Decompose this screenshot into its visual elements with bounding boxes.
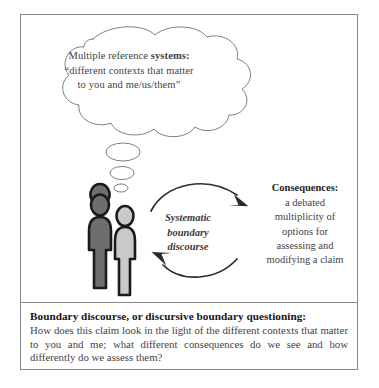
consequences-line-2: options for [255, 225, 355, 239]
caption-panel: Boundary discourse, or discursive bounda… [21, 303, 357, 369]
person-figure-right [115, 206, 135, 295]
thought-line1-bold: systems: [151, 50, 190, 61]
figure-root: Multiple reference systems: “different c… [0, 0, 379, 388]
arrow-to-people [150, 251, 237, 277]
diagram-panel: Multiple reference systems: “different c… [21, 15, 357, 302]
person-right-head [117, 206, 134, 226]
person-right-body [115, 227, 135, 295]
consequences-line-3: assessing and [255, 239, 355, 253]
consequences-line-4: modifying a claim [255, 253, 355, 267]
caption-title: Boundary discourse, or discursive bounda… [30, 309, 348, 323]
thought-line3: to you and me/us/them” [29, 78, 229, 93]
thought-bubble-text: Multiple reference systems: “different c… [29, 49, 229, 93]
consequences-title: Consequences: [255, 181, 355, 195]
thought-trail-bubble-large [106, 143, 140, 161]
person-figure-left [89, 184, 111, 288]
person-left-head [91, 195, 109, 216]
cycle-label-line1: Systematic [149, 211, 227, 226]
caption-body: How does this claim look in the light of… [30, 324, 348, 365]
thought-trail-bubble-medium [110, 167, 134, 180]
cycle-label: Systematic boundary discourse [149, 211, 227, 255]
thought-trail-bubble-small [114, 184, 128, 192]
consequences-line-0: a debated [255, 196, 355, 210]
arrow-to-consequences [151, 184, 250, 211]
consequences-line-1: multiplicity of [255, 210, 355, 224]
thought-trail-bubbles [106, 143, 140, 192]
thought-line2: “different contexts that matter [29, 64, 229, 79]
consequences-block: Consequences: a debated multiplicity of … [255, 181, 355, 267]
person-left-body [89, 217, 111, 288]
cycle-label-line2: boundary [149, 226, 227, 241]
thought-line1-prefix: Multiple reference [68, 50, 150, 61]
cycle-label-line3: discourse [149, 240, 227, 255]
